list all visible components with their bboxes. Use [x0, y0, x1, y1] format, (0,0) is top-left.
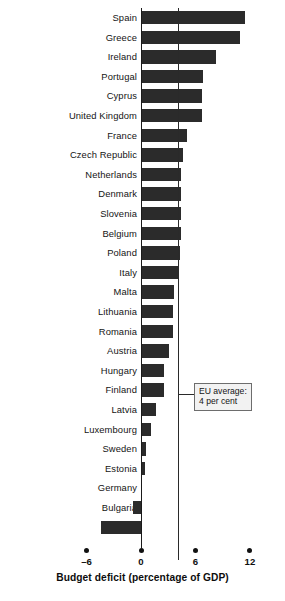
- bar-row: Austria: [0, 341, 285, 361]
- bar-row: Estonia: [0, 459, 285, 479]
- bar-row-label: Belgium: [0, 224, 137, 244]
- x-axis-title: Budget deficit (percentage of GDP): [0, 572, 285, 583]
- bar: [141, 344, 169, 357]
- x-axis-tick-label: 12: [233, 556, 267, 567]
- budget-deficit-chart: SpainGreeceIrelandPortugalCyprusUnited K…: [0, 0, 285, 601]
- bar: [133, 501, 141, 514]
- x-axis-tick-dot: [84, 548, 89, 553]
- bar-row: Bulgaria: [0, 498, 285, 518]
- bar: [141, 227, 181, 240]
- eu-average-annotation: EU average: 4 per cent: [194, 383, 252, 411]
- bar-row-label: Cyprus: [0, 86, 137, 106]
- bar-row-label: Germany: [0, 478, 137, 498]
- plot-area: SpainGreeceIrelandPortugalCyprusUnited K…: [0, 8, 285, 540]
- bar: [141, 70, 203, 83]
- bar-row-label: Denmark: [0, 184, 137, 204]
- bar: [141, 325, 173, 338]
- bar-row: United Kingdom: [0, 106, 285, 126]
- bar-row-label: Estonia: [0, 459, 137, 479]
- bar: [141, 187, 181, 200]
- x-axis: –60612 Budget deficit (percentage of GDP…: [0, 548, 285, 588]
- bar-row: Greece: [0, 28, 285, 48]
- bar-row: Spain: [0, 8, 285, 28]
- bar: [141, 364, 164, 377]
- bar: [141, 129, 187, 142]
- bar-row-label: Sweden: [0, 439, 137, 459]
- bar-row-label: Romania: [0, 322, 137, 342]
- bar-row-label: Slovenia: [0, 204, 137, 224]
- bar-row: Luxembourg: [0, 420, 285, 440]
- x-axis-tick-dot: [139, 548, 144, 553]
- bar-row: Portugal: [0, 67, 285, 87]
- bar: [141, 246, 180, 259]
- bar-row: Denmark: [0, 184, 285, 204]
- bar-row-label: United Kingdom: [0, 106, 137, 126]
- bar-row-label: Bulgaria: [0, 498, 137, 518]
- bar-row: Ireland: [0, 47, 285, 67]
- bar-row: Malta: [0, 282, 285, 302]
- bar: [141, 383, 164, 396]
- bar-row-label: Spain: [0, 8, 137, 28]
- bar-row: Lithuania: [0, 302, 285, 322]
- bar-row: Romania: [0, 322, 285, 342]
- bar-row: France: [0, 126, 285, 146]
- bar-row-label: Austria: [0, 341, 137, 361]
- x-axis-tick-label: 0: [124, 556, 158, 567]
- bar: [141, 31, 240, 44]
- bar: [141, 11, 245, 24]
- x-axis-tick-label: 6: [178, 556, 212, 567]
- bar-row: Hungary: [0, 361, 285, 381]
- bar-row: Czech Republic: [0, 145, 285, 165]
- bar-row-label: Hungary: [0, 361, 137, 381]
- eu-annotation-leader: [178, 394, 194, 395]
- bar: [141, 148, 183, 161]
- bar-row-label: Netherlands: [0, 165, 137, 185]
- bar-row-label: Lithuania: [0, 302, 137, 322]
- eu-annotation-line-1: EU average:: [199, 386, 247, 396]
- eu-average-line: [178, 8, 179, 560]
- eu-annotation-line-2: 4 per cent: [199, 396, 247, 406]
- bar-row-label: Czech Republic: [0, 145, 137, 165]
- bar: [141, 266, 178, 279]
- bar-row-label: Greece: [0, 28, 137, 48]
- bar-row-label: Finland: [0, 380, 137, 400]
- x-axis-tick-dot: [247, 548, 252, 553]
- bar: [141, 109, 202, 122]
- bar-row: Cyprus: [0, 86, 285, 106]
- bar: [141, 403, 156, 416]
- bar: [101, 521, 141, 534]
- bar: [141, 285, 174, 298]
- bar-row-label: Italy: [0, 263, 137, 283]
- bar: [141, 305, 173, 318]
- bar-row: Italy: [0, 263, 285, 283]
- bar-row-label: France: [0, 126, 137, 146]
- bar-row: Netherlands: [0, 165, 285, 185]
- bar: [141, 168, 181, 181]
- bar-row: Belgium: [0, 224, 285, 244]
- bar-row-label: Luxembourg: [0, 420, 137, 440]
- bar-row-label: Ireland: [0, 47, 137, 67]
- x-axis-tick-label: –6: [70, 556, 104, 567]
- bar: [141, 207, 181, 220]
- bar-row-label: Malta: [0, 282, 137, 302]
- bar-row: Sweden: [0, 439, 285, 459]
- bar-row: Poland: [0, 243, 285, 263]
- bar-row: Germany: [0, 478, 285, 498]
- zero-axis-line: [141, 8, 142, 548]
- bar-row-label: Latvia: [0, 400, 137, 420]
- x-axis-tick-dot: [193, 548, 198, 553]
- bar-row: Slovenia: [0, 204, 285, 224]
- bar-row-label: Portugal: [0, 67, 137, 87]
- bar: [141, 89, 202, 102]
- bar: [141, 423, 151, 436]
- bar-row-label: Poland: [0, 243, 137, 263]
- bar-row: Slovakia: [0, 518, 285, 538]
